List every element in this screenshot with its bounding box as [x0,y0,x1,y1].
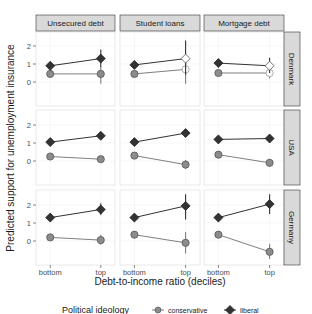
conservative-point [97,70,104,77]
legend-key-conservative [155,307,161,313]
conservative-point [131,152,138,159]
strip-label: Mortgage debt [218,19,270,28]
y-tick-label: 1 [27,139,31,148]
conservative-point [182,239,189,246]
conservative-point [266,159,273,166]
conservative-point [97,237,104,244]
x-axis-title: Debt-to-income ratio (deciles) [94,276,225,287]
y-tick-label: 2 [27,201,31,210]
panel-bg [120,190,200,265]
conservative-point [182,161,189,168]
conservative-point [47,70,54,77]
y-tick-label: 2 [27,121,31,130]
legend-label-conservative: conservative [168,307,207,314]
y-tick-label: 1 [27,60,31,69]
panel-bg [36,110,115,185]
strip-label: Unsecured debt [47,19,104,28]
conservative-point [47,153,54,160]
panel-bg [36,190,115,265]
y-axis-title: Predicted support for unemployment insur… [5,44,16,252]
conservative-point [215,69,222,76]
conservative-point [215,151,222,158]
strip-label: Student loans [136,19,185,28]
panel-bg [204,32,284,106]
y-tick-label: 0 [27,237,31,246]
conservative-point [215,231,222,238]
conservative-point [47,234,54,241]
panel-bg [120,110,200,185]
x-tick-label: bottom [39,268,62,277]
strip-label: USA [287,139,296,156]
legend-title: Political ideology [62,305,130,314]
strip-label: Germany [287,211,296,244]
y-tick-label: 0 [27,78,31,87]
panels-layer [36,32,284,265]
y-tick-label: 0 [27,157,31,166]
panel-bg [36,32,115,106]
legend-key-liberal [226,306,235,314]
x-tick-label: top [264,268,274,277]
legend-label-liberal: liberal [240,307,259,314]
conservative-point [131,70,138,77]
conservative-point [266,248,273,255]
y-tick-label: 1 [27,219,31,228]
conservative-point [97,156,104,163]
strip-label: Denmark [287,53,296,86]
legend: Political ideology conservativeliberal [62,305,259,314]
y-tick-label: 2 [27,42,31,51]
panel-bg [204,110,284,185]
faceted-chart: Unsecured debtStudent loansMortgage debt… [0,0,312,314]
conservative-point [131,231,138,238]
